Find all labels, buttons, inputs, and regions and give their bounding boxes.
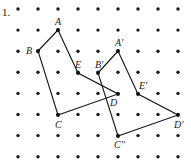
grid-dot [76, 113, 79, 116]
grid-dot [176, 155, 179, 158]
grid-dot [176, 7, 179, 10]
vertex-label: D [110, 98, 117, 108]
grid-dot [156, 28, 159, 31]
grid-dot [36, 92, 39, 95]
grid-dot [56, 50, 59, 53]
vertex-label: A' [115, 38, 123, 48]
vertex-dot [176, 113, 180, 117]
vertex-dot [56, 113, 60, 117]
grid-dot [136, 134, 139, 137]
grid-dot [76, 155, 79, 158]
grid-dot [156, 92, 159, 95]
grid-dot [36, 28, 39, 31]
grid-dot [56, 92, 59, 95]
grid-dot [116, 7, 119, 10]
grid-dot [96, 92, 99, 95]
grid-dot [76, 7, 79, 10]
vertex-dot [116, 49, 120, 53]
grid-dot [56, 71, 59, 74]
grid-dot [16, 134, 19, 137]
grid-dot [36, 71, 39, 74]
vertex-label: A [55, 17, 61, 27]
grid-dot [56, 155, 59, 158]
grid-dot [96, 50, 99, 53]
grid-dot [156, 71, 159, 74]
vertex-label: C [55, 120, 62, 130]
grid-dot [36, 134, 39, 137]
vertex-dot [36, 49, 40, 53]
vertex-dot [116, 134, 120, 138]
problem-number: 1. [2, 7, 10, 18]
grid-dot [136, 71, 139, 74]
grid-dot [56, 134, 59, 137]
grid-dot [36, 7, 39, 10]
vertex-label: D' [174, 120, 183, 130]
grid-dot [76, 134, 79, 137]
grid-dot [116, 71, 119, 74]
grid-dot [156, 7, 159, 10]
grid-dot [116, 155, 119, 158]
grid-dot [156, 155, 159, 158]
grid-dot [156, 50, 159, 53]
vertex-label: C'' [114, 140, 125, 150]
grid-dot [116, 28, 119, 31]
grid-dot [176, 71, 179, 74]
vertex-dot [76, 71, 80, 75]
vertex-dot [56, 28, 60, 32]
grid-dot [16, 92, 19, 95]
grid-dot [116, 113, 119, 116]
grid-dot [76, 28, 79, 31]
grid-dot [16, 7, 19, 10]
geometry-figure: 1. ABCDEA'B'C''D'E' [0, 0, 191, 163]
vertex-dot [96, 71, 100, 75]
grid-dot [36, 113, 39, 116]
vertex-label: E' [139, 81, 147, 91]
grid-dot [96, 113, 99, 116]
grid-dot [56, 7, 59, 10]
vertex-label: B' [95, 60, 103, 70]
grid-dot [76, 92, 79, 95]
grid-dot [16, 155, 19, 158]
grid-dot [16, 28, 19, 31]
vertex-label: B [26, 46, 32, 56]
vertex-dot [116, 92, 120, 96]
grid-dot [96, 134, 99, 137]
grid-dot [136, 7, 139, 10]
grid-dot [176, 28, 179, 31]
grid-dot [16, 71, 19, 74]
grid-dot [16, 50, 19, 53]
grid-dot [76, 50, 79, 53]
grid-dot [96, 155, 99, 158]
grid-dot [96, 7, 99, 10]
grid-dot [176, 50, 179, 53]
grid-dot [176, 134, 179, 137]
grid-dot [176, 92, 179, 95]
vertex-label: E [75, 60, 81, 70]
grid-dot [156, 113, 159, 116]
dot-grid [16, 7, 179, 158]
grid-dot [136, 28, 139, 31]
grid-dot [136, 50, 139, 53]
figure-canvas [0, 0, 191, 163]
grid-dot [96, 28, 99, 31]
grid-dot [16, 113, 19, 116]
grid-dot [136, 155, 139, 158]
vertex-dot [136, 92, 140, 96]
grid-dot [136, 113, 139, 116]
grid-dot [36, 155, 39, 158]
grid-dot [156, 134, 159, 137]
